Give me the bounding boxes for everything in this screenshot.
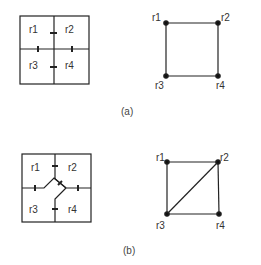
node-r4 — [217, 212, 221, 216]
region-label-r3: r3 — [29, 204, 38, 215]
region-label-r3: r3 — [29, 60, 38, 71]
region-label-r2: r2 — [65, 24, 74, 35]
node-r1 — [164, 21, 168, 25]
node-r1 — [165, 160, 169, 164]
node-r2 — [216, 21, 220, 25]
region-label-r4: r4 — [68, 204, 77, 215]
node-label-r4: r4 — [216, 80, 225, 91]
edge-r2-r3 — [167, 162, 218, 214]
node-label-r3: r3 — [155, 80, 164, 91]
panel-a-graph — [164, 21, 220, 78]
node-r4 — [216, 74, 220, 78]
region-label-r1: r1 — [29, 24, 38, 35]
node-r3 — [164, 74, 168, 78]
node-label-r1: r1 — [156, 152, 165, 163]
region-label-r4: r4 — [65, 60, 74, 71]
node-label-r4: r4 — [216, 220, 225, 231]
node-label-r1: r1 — [152, 12, 161, 23]
node-label-r3: r3 — [156, 220, 165, 231]
node-label-r2: r2 — [220, 152, 229, 163]
region-label-r2: r2 — [68, 162, 77, 173]
panel-b-graph — [165, 160, 221, 216]
caption-a: (a) — [121, 106, 133, 117]
edge-r2-r4 — [218, 162, 219, 214]
node-r3 — [165, 212, 169, 216]
region-label-r1: r1 — [31, 162, 40, 173]
caption-b: (b) — [123, 245, 135, 256]
node-label-r2: r2 — [221, 12, 230, 23]
